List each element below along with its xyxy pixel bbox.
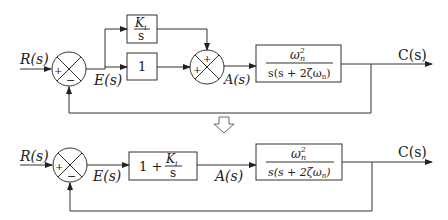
sum2-left-plus-sign: + — [193, 64, 201, 75]
pi-prefix: 1 + — [139, 159, 162, 174]
block-diagram: R(s) E(s) A(s) C(s) + − + + Ki s 1 ω2n s… — [0, 0, 448, 220]
sum2-top-plus-sign: + — [203, 53, 211, 64]
input-label-bottom: R(s) — [19, 148, 49, 164]
sum1-minus-sign: − — [66, 74, 75, 87]
a-label-top: A(s) — [223, 72, 250, 87]
error-label-bottom: E(s) — [92, 168, 121, 184]
sum-plus-sign-bottom: + — [55, 161, 63, 172]
sum-minus-sign-bottom: − — [67, 170, 76, 183]
output-label-top: C(s) — [398, 47, 427, 63]
plant-den-top: s(s + 2ζωn) — [268, 67, 331, 81]
error-label-top: E(s) — [93, 72, 122, 88]
sum1-plus-sign: + — [54, 65, 62, 76]
proportional-gain: 1 — [138, 59, 146, 74]
output-label-bottom: C(s) — [398, 144, 427, 160]
plant-num-bottom: ω2n — [291, 145, 306, 162]
integral-den: s — [138, 29, 144, 43]
a-label-bottom: A(s) — [213, 168, 243, 184]
plant-num-top: ω2n — [290, 46, 305, 63]
pi-den: s — [170, 166, 176, 180]
down-arrow-icon — [214, 117, 234, 133]
plant-den-bottom: s(s + 2ζωn) — [268, 166, 331, 180]
input-label-top: R(s) — [19, 51, 49, 67]
